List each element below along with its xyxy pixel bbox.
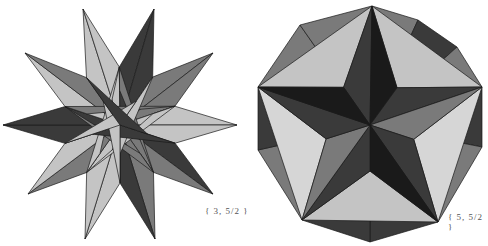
great-dodecahedron-figure: [258, 6, 482, 242]
schlafli-label-great-icosahedron: { 3, 5/2 }: [205, 206, 249, 216]
schlafli-label-great-dodecahedron: { 5, 5/2 }: [448, 212, 488, 232]
great-icosahedron-figure: [3, 9, 237, 239]
